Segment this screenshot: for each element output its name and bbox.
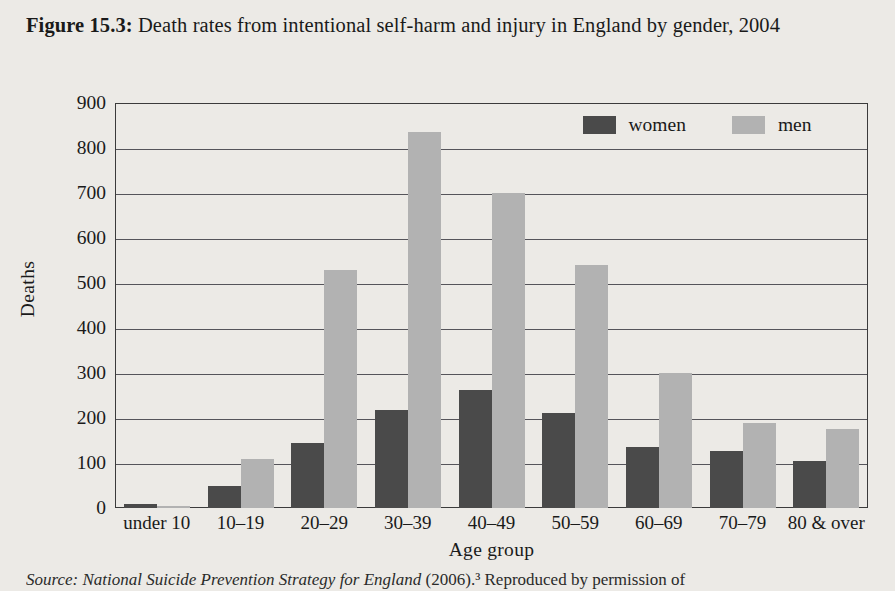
legend-swatch-men (732, 116, 765, 134)
gridline-700 (116, 194, 867, 195)
chart-legend: womenmen (537, 109, 857, 140)
x-tick-under-10: under 10 (115, 512, 199, 534)
legend-swatch-women (583, 116, 616, 134)
bar-chart: Deaths 0100200300400500600700800900 wome… (0, 78, 895, 556)
y-tick-200: 200 (50, 408, 106, 428)
x-tick-40-49: 40–49 (450, 512, 534, 534)
y-axis-tick-labels: 0100200300400500600700800900 (40, 103, 106, 508)
x-tick-30-39: 30–39 (366, 512, 450, 534)
legend-entry-men[interactable]: men (732, 115, 812, 135)
y-tick-700: 700 (50, 183, 106, 203)
source-rest: (2006).³ Reproduced by permission of (421, 570, 685, 589)
x-axis-tick-labels: under 1010–1920–2930–3940–4950–5960–6970… (115, 512, 868, 534)
y-tick-100: 100 (50, 453, 106, 473)
gridline-800 (116, 149, 867, 150)
y-tick-600: 600 (50, 228, 106, 248)
gridline-100 (116, 464, 867, 465)
legend-label-men: men (778, 115, 812, 135)
gridline-400 (116, 329, 867, 330)
x-tick-60-69: 60–69 (617, 512, 701, 534)
legend-label-women: women (629, 115, 686, 135)
y-tick-800: 800 (50, 138, 106, 158)
plot-area (115, 103, 868, 508)
figure-number: Figure 15.3: (26, 14, 133, 36)
x-tick-50-59: 50–59 (533, 512, 617, 534)
x-axis-title: Age group (115, 539, 868, 561)
y-tick-500: 500 (50, 273, 106, 293)
legend-entry-women[interactable]: women (583, 115, 686, 135)
gridline-500 (116, 284, 867, 285)
x-tick-80-over: 80 & over (784, 512, 868, 534)
y-tick-900: 900 (50, 93, 106, 113)
x-tick-10-19: 10–19 (199, 512, 283, 534)
gridline-300 (116, 374, 867, 375)
source-label: Source: (26, 570, 83, 589)
y-tick-300: 300 (50, 363, 106, 383)
source-note: Source: National Suicide Prevention Stra… (26, 569, 886, 591)
y-tick-0: 0 (50, 498, 106, 518)
figure-caption-text: Death rates from intentional self-harm a… (133, 14, 780, 36)
x-tick-20-29: 20–29 (282, 512, 366, 534)
gridline-600 (116, 239, 867, 240)
source-title: National Suicide Prevention Strategy for… (83, 570, 422, 589)
y-tick-400: 400 (50, 318, 106, 338)
y-axis-title: Deaths (17, 229, 39, 349)
gridline-200 (116, 419, 867, 420)
x-tick-70-79: 70–79 (701, 512, 785, 534)
figure-caption: Figure 15.3: Death rates from intentiona… (26, 10, 846, 41)
